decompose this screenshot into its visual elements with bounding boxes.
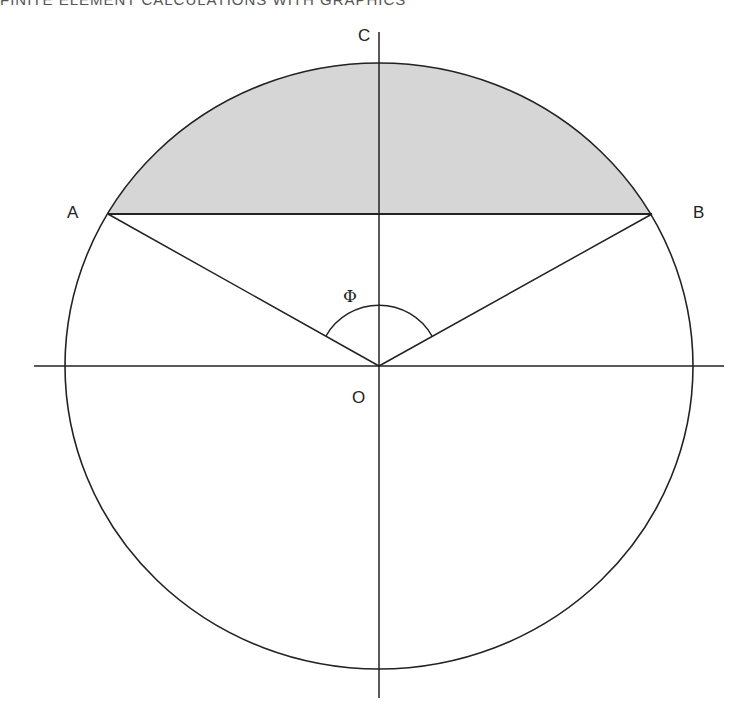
label-o: O — [352, 388, 365, 407]
label-b: B — [693, 203, 704, 222]
label-phi: Φ — [343, 286, 357, 306]
label-a: A — [67, 203, 79, 222]
circular-segment-diagram: C A B Φ O — [0, 0, 745, 718]
radius-ob — [379, 214, 652, 366]
radius-oa — [108, 214, 379, 366]
label-c: C — [358, 26, 370, 45]
